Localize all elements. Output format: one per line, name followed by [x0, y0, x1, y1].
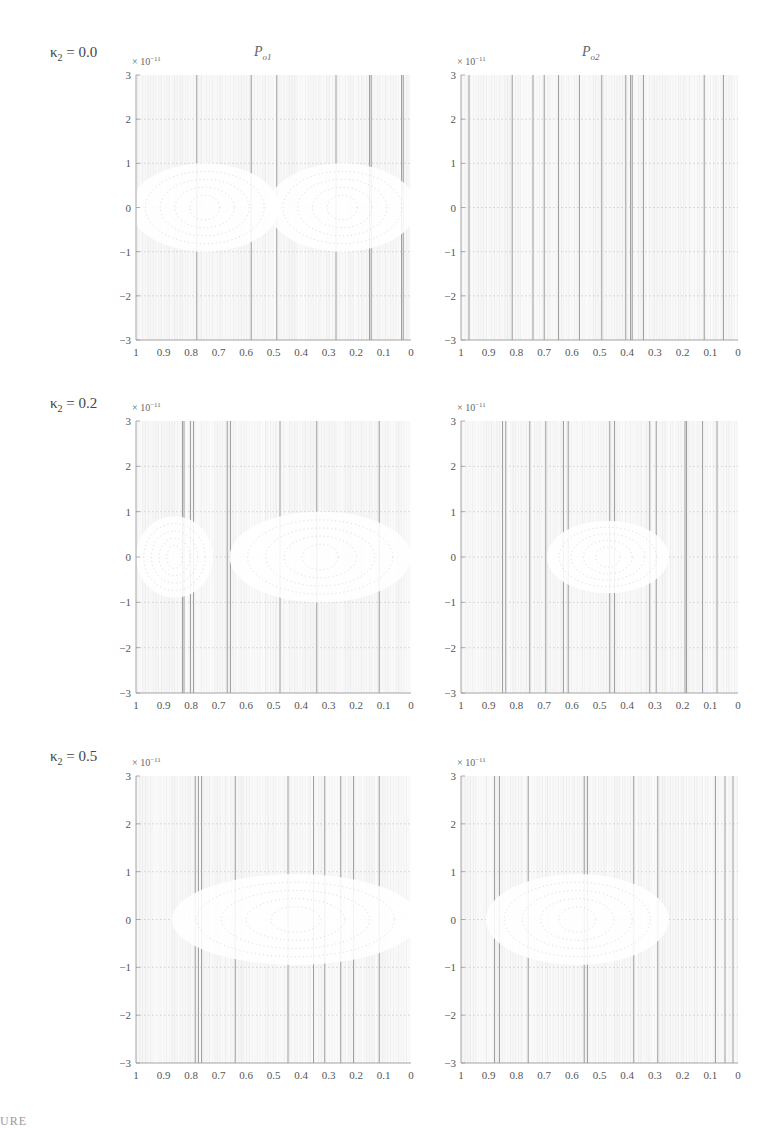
y-tick-label: −2: [119, 290, 131, 302]
contour-region: [131, 163, 280, 251]
x-tick-label: 0.3: [648, 1069, 662, 1081]
x-tick-label: 0: [735, 699, 741, 711]
x-tick-label: 1: [133, 1069, 139, 1081]
y-tick-label: −3: [444, 1057, 456, 1069]
y-tick-label: 3: [126, 770, 132, 782]
y-scale-exponent-label: × 10−11: [132, 55, 161, 67]
contour-plot-po2-row0: 3210−1−2−310.90.80.70.60.50.40.30.20.10: [421, 70, 758, 365]
x-tick-label: 0.7: [537, 346, 551, 358]
caption-fragment: URE: [0, 1114, 27, 1128]
y-tick-label: −2: [119, 642, 131, 654]
y-scale-exponent-label: × 10−11: [132, 756, 161, 768]
x-tick-label: 0.4: [294, 699, 308, 711]
x-tick-label: 0: [735, 1069, 741, 1081]
row-label-kappa-2: κ2 = 0.5: [50, 748, 97, 767]
x-tick-label: 0.3: [322, 1069, 336, 1081]
y-tick-label: 2: [126, 113, 132, 125]
x-tick-label: 0: [408, 346, 414, 358]
y-tick-label: 0: [451, 551, 457, 563]
x-tick-label: 0.1: [703, 346, 717, 358]
y-tick-label: 0: [451, 914, 457, 926]
y-tick-label: 0: [126, 202, 132, 214]
title-sub: o2: [591, 52, 600, 62]
contour-region: [136, 516, 213, 598]
y-tick-label: 1: [126, 866, 132, 878]
title-main: P: [582, 44, 591, 59]
row-label-kappa-0: κ2 = 0.0: [50, 44, 97, 63]
x-tick-label: 0.7: [537, 699, 551, 711]
y-tick-label: 2: [451, 818, 457, 830]
y-tick-label: 3: [451, 770, 457, 782]
y-tick-label: −3: [119, 687, 131, 699]
kappa-subscript: 2: [58, 756, 63, 767]
x-tick-label: 0.6: [239, 699, 253, 711]
y-tick-label: 2: [451, 460, 457, 472]
x-tick-label: 0.8: [510, 346, 524, 358]
y-tick-label: −2: [444, 642, 456, 654]
x-tick-label: 0.1: [377, 346, 391, 358]
y-tick-label: −1: [119, 961, 131, 973]
plot-field: [136, 421, 411, 693]
y-tick-label: −1: [444, 961, 456, 973]
x-tick-label: 0.5: [593, 346, 607, 358]
plot-field: [131, 75, 417, 340]
y-tick-label: −2: [444, 1009, 456, 1021]
x-tick-label: 0.3: [648, 346, 662, 358]
y-scale-exponent-label: × 10−11: [457, 401, 486, 413]
contour-plot-po2-row1: 3210−1−2−310.90.80.70.60.50.40.30.20.10: [421, 416, 758, 718]
y-tick-label: 0: [451, 202, 457, 214]
x-tick-label: 0.8: [184, 346, 198, 358]
x-tick-label: 0.7: [537, 1069, 551, 1081]
x-tick-label: 0.8: [510, 1069, 524, 1081]
kappa-symbol: κ: [50, 395, 58, 411]
contour-region: [172, 874, 420, 965]
y-tick-label: 1: [451, 866, 457, 878]
y-tick-label: −1: [119, 246, 131, 258]
x-tick-label: 0.2: [349, 1069, 363, 1081]
column-title-po1: Po1: [254, 44, 272, 62]
x-tick-label: 1: [133, 699, 139, 711]
y-tick-label: 2: [126, 818, 132, 830]
contour-plot-po1-row0: 3210−1−2−310.90.80.70.60.50.40.30.20.10: [96, 70, 431, 365]
y-tick-label: 3: [451, 415, 457, 427]
kappa-symbol: κ: [50, 748, 58, 764]
y-tick-label: 0: [126, 551, 132, 563]
y-tick-label: −3: [119, 334, 131, 346]
x-tick-label: 0.6: [565, 699, 579, 711]
x-tick-label: 0.8: [184, 1069, 198, 1081]
x-tick-label: 0.6: [239, 1069, 253, 1081]
x-tick-label: 0.6: [239, 346, 253, 358]
y-scale-exponent-label: × 10−11: [457, 55, 486, 67]
x-tick-label: 0.3: [648, 699, 662, 711]
x-tick-label: 0.3: [322, 699, 336, 711]
x-tick-label: 1: [458, 699, 464, 711]
y-tick-label: 3: [126, 69, 132, 81]
y-scale-exponent-label: × 10−11: [132, 401, 161, 413]
x-tick-label: 0.5: [267, 346, 281, 358]
x-tick-label: 0.9: [482, 346, 496, 358]
x-tick-label: 0.1: [703, 1069, 717, 1081]
y-scale-exponent-label: × 10−11: [457, 756, 486, 768]
contour-region: [230, 512, 412, 603]
y-tick-label: 0: [126, 914, 132, 926]
y-tick-label: −1: [444, 596, 456, 608]
y-tick-label: −3: [444, 334, 456, 346]
x-tick-label: 0: [408, 1069, 414, 1081]
x-tick-label: 0.4: [620, 346, 634, 358]
kappa-value: = 0.2: [66, 395, 97, 411]
contour-region: [268, 163, 417, 251]
y-tick-label: −3: [444, 687, 456, 699]
kappa-subscript: 2: [58, 52, 63, 63]
x-tick-label: 0: [735, 346, 741, 358]
x-tick-label: 1: [458, 1069, 464, 1081]
x-tick-label: 0.2: [676, 699, 690, 711]
contour-plot-po1-row2: 3210−1−2−310.90.80.70.60.50.40.30.20.10: [96, 771, 431, 1088]
x-tick-label: 0.5: [267, 699, 281, 711]
y-tick-label: −2: [119, 1009, 131, 1021]
y-tick-label: 1: [451, 506, 457, 518]
kappa-value: = 0.0: [66, 44, 97, 60]
x-tick-label: 0.3: [322, 346, 336, 358]
x-tick-label: 0.1: [377, 699, 391, 711]
x-tick-label: 0.9: [482, 699, 496, 711]
x-tick-label: 0.9: [157, 1069, 171, 1081]
